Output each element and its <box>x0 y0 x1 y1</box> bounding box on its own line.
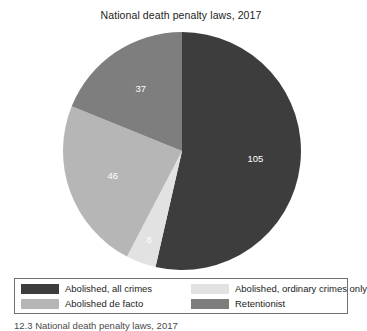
legend-swatch-icon <box>21 299 59 309</box>
legend-item-abolished-de-facto[interactable]: Abolished de facto <box>21 296 191 311</box>
pie-svg: 10584637 <box>62 31 302 271</box>
figure-caption: 12.3 National death penalty laws, 2017 <box>14 320 362 331</box>
legend-item-label: Abolished, all crimes <box>65 283 152 294</box>
pie-slice-value-label: 37 <box>135 83 146 94</box>
legend-swatch-icon <box>191 284 229 294</box>
legend-item-abolished-ordinary-crimes-only[interactable]: Abolished, ordinary crimes only <box>191 281 367 296</box>
pie-slice-value-label: 46 <box>107 170 118 181</box>
pie-slice-value-label: 105 <box>247 153 263 164</box>
legend-item-label: Abolished, ordinary crimes only <box>235 283 367 294</box>
legend-item-retentionist[interactable]: Retentionist <box>191 296 367 311</box>
pie-slice-group <box>63 32 301 270</box>
chart-title: National death penalty laws, 2017 <box>0 9 362 22</box>
legend: Abolished, all crimes Abolished, ordinar… <box>14 278 348 314</box>
legend-grid: Abolished, all crimes Abolished, ordinar… <box>15 279 347 313</box>
pie-slice-value-label: 8 <box>146 234 151 245</box>
legend-item-abolished-all-crimes[interactable]: Abolished, all crimes <box>21 281 191 296</box>
legend-item-label: Abolished de facto <box>65 298 143 309</box>
legend-swatch-icon <box>21 284 59 294</box>
legend-swatch-icon <box>191 299 229 309</box>
legend-item-label: Retentionist <box>235 298 285 309</box>
pie-plot-area: 10584637 <box>62 31 302 271</box>
